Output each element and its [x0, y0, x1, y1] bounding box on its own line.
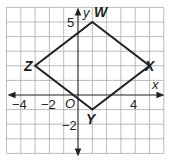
tick-x-4: 4 [130, 97, 137, 112]
grid [7, 7, 164, 153]
y-axis-up-arrow-icon [76, 9, 81, 15]
origin-label: O [65, 96, 75, 111]
y-axis-down-arrow-icon [76, 149, 81, 155]
vertex-label-x: X [144, 58, 156, 74]
x-axis [9, 93, 163, 98]
tick-y-minus-2: −2 [62, 118, 77, 133]
tick-x-minus-4: −4 [12, 97, 27, 112]
x-axis-label: x [151, 77, 159, 92]
vertex-label-z: Z [23, 58, 33, 74]
tick-y-5: 5 [67, 15, 74, 30]
coordinate-plane: y x W X Y Z O −4 −2 4 5 −2 [0, 0, 171, 163]
tick-x-minus-2: −2 [41, 97, 56, 112]
x-axis-right-arrow-icon [157, 93, 163, 98]
vertex-label-w: W [94, 4, 109, 20]
